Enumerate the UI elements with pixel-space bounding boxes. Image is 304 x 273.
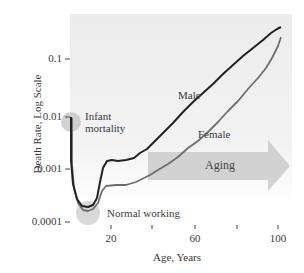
normal-working-label: Normal working — [107, 207, 180, 219]
male-label: Male — [178, 89, 201, 101]
y-tick-0.0001: 0.0001 — [2, 215, 62, 227]
x-tick-20: 20 — [96, 232, 126, 244]
chart-canvas — [0, 0, 304, 273]
x-tick-60: 60 — [180, 232, 210, 244]
infant-label-line2: mortality — [85, 122, 125, 134]
x-axis-title: Age, Years — [153, 251, 201, 263]
y-axis-ticks — [65, 59, 70, 222]
y-axis-title: Death Rate, Log Scale — [31, 49, 43, 199]
infant-label-line1: Infant — [85, 110, 125, 122]
female-label: Female — [198, 128, 230, 140]
aging-label: Aging — [205, 158, 235, 173]
x-axis-ticks — [111, 225, 278, 229]
x-tick-100: 100 — [263, 232, 293, 244]
infant-mortality-label: Infant mortality — [85, 110, 125, 134]
